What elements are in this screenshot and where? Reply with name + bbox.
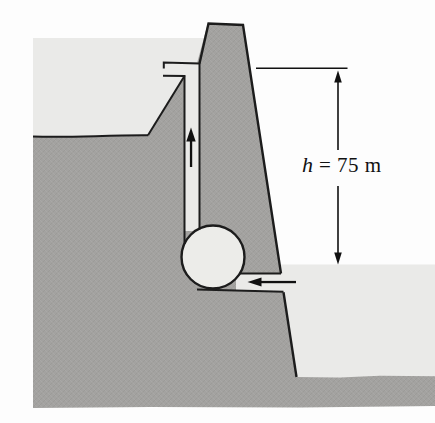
height-value: = 75 m [319, 153, 382, 177]
dam-pump-diagram: h = 75 m [0, 0, 435, 423]
dimension-arrowhead-down-icon [334, 253, 342, 265]
dimension-arrowhead-up-icon [334, 71, 342, 83]
height-symbol: h [302, 152, 313, 177]
pump-circle [182, 226, 245, 289]
figure: h = 75 m [0, 0, 435, 423]
